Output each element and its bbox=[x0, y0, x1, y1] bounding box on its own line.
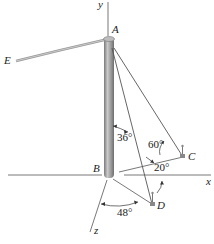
cable-AD bbox=[112, 48, 152, 204]
angle-36-label: 36° bbox=[117, 131, 132, 143]
angle-60-label: 60° bbox=[148, 138, 163, 150]
anchor-C bbox=[180, 145, 185, 158]
pole-diagram: y A E B C D x z 36° 60° 20° 48° bbox=[0, 0, 214, 244]
angle-20-label: 20° bbox=[154, 161, 169, 173]
point-A-label: A bbox=[111, 23, 119, 35]
x-axis-label: x bbox=[205, 175, 211, 187]
point-C-label: C bbox=[188, 150, 196, 162]
z-axis-label: z bbox=[93, 224, 99, 236]
point-E-label: E bbox=[3, 54, 11, 66]
y-axis-label: y bbox=[97, 0, 103, 10]
pole-AB bbox=[104, 38, 114, 178]
line-BC bbox=[119, 157, 183, 172]
point-B-label: B bbox=[93, 162, 100, 174]
point-D-label: D bbox=[156, 199, 165, 211]
angle-48-label: 48° bbox=[117, 206, 132, 218]
pole-top bbox=[104, 37, 115, 42]
z-axis bbox=[90, 180, 107, 232]
